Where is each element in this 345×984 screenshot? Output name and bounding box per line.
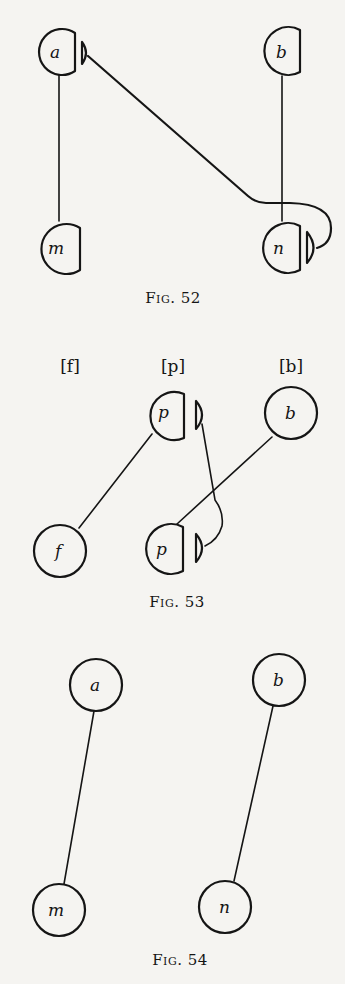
node-label: p — [158, 402, 169, 422]
node-label: m — [48, 900, 64, 920]
hook-p-bottom — [196, 534, 202, 562]
column-label-b: [b] — [279, 356, 303, 376]
node-p-top: p — [150, 392, 184, 440]
edge-b-n — [234, 706, 273, 881]
node-b: b — [265, 387, 317, 439]
node-m: m — [33, 884, 85, 936]
node-label: n — [273, 238, 284, 258]
edge-p-f — [79, 434, 152, 528]
figure-caption: Fig. 54 — [152, 951, 208, 969]
figure-caption: Fig. 52 — [145, 289, 201, 307]
column-label-p: [p] — [161, 356, 185, 376]
hook-n — [307, 232, 314, 263]
figure-52: a b m n Fig. 52 — [39, 27, 331, 307]
figures-canvas: a b m n Fig. 52 [f] [p] [b] — [0, 0, 345, 984]
node-n: n — [199, 881, 251, 933]
node-p-bottom: p — [146, 524, 183, 574]
node-label: a — [50, 42, 60, 62]
node-a: a — [70, 659, 122, 711]
node-label: b — [273, 670, 284, 690]
node-label: n — [219, 897, 230, 917]
node-label: f — [53, 541, 64, 561]
node-label: m — [48, 238, 64, 258]
node-label: b — [276, 42, 287, 62]
node-b: b — [264, 27, 300, 75]
node-a: a — [39, 29, 75, 75]
column-label-f: [f] — [60, 356, 80, 376]
node-n: n — [263, 223, 300, 273]
node-b: b — [253, 654, 305, 706]
node-m: m — [41, 224, 80, 274]
figure-54: a b m n Fig. 54 — [33, 654, 305, 969]
node-f: f — [34, 525, 86, 577]
figure-caption: Fig. 53 — [149, 593, 205, 611]
edge-a-m — [64, 711, 94, 884]
figure-53: [f] [p] [b] p b f p Fig. 53 — [34, 356, 317, 611]
node-label: b — [285, 403, 296, 423]
hook-a — [82, 42, 86, 64]
node-label: a — [90, 675, 100, 695]
edge-a-hook-to-n-hook — [88, 56, 331, 248]
node-label: p — [156, 539, 167, 559]
edge-b-p — [177, 437, 272, 524]
hook-p-top — [196, 401, 202, 429]
